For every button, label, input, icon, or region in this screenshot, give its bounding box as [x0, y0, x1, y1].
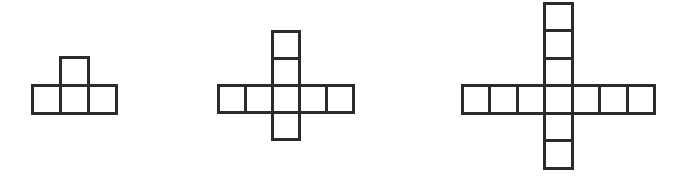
square-cell	[272, 112, 299, 139]
square-cell	[545, 58, 573, 86]
square-cell	[326, 85, 353, 112]
square-cell	[272, 31, 299, 58]
square-cell	[517, 86, 545, 114]
square-cell	[32, 85, 60, 113]
square-cell	[600, 86, 628, 114]
square-cell	[60, 57, 88, 85]
square-cell	[545, 31, 573, 59]
square-cell	[545, 141, 573, 169]
square-cell	[490, 86, 518, 114]
square-cell	[545, 3, 573, 31]
square-cell	[462, 86, 490, 114]
figures-svg	[0, 0, 694, 180]
square-cell	[60, 85, 88, 113]
square-cell	[272, 85, 299, 112]
figures-canvas	[0, 0, 694, 180]
square-cell	[218, 85, 245, 112]
square-cell	[545, 113, 573, 141]
square-cell	[572, 86, 600, 114]
square-cell	[88, 85, 116, 113]
square-cell	[545, 86, 573, 114]
square-cell	[272, 58, 299, 85]
square-cell	[245, 85, 272, 112]
square-cell	[627, 86, 655, 114]
square-cell	[299, 85, 326, 112]
